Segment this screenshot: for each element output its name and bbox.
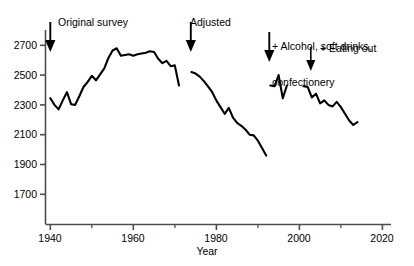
x-tick-marks (50, 225, 382, 231)
y-tick-label-2100: 2100 (5, 128, 37, 140)
x-tick-label-2020: 2020 (362, 232, 402, 244)
y-tick-label-1700: 1700 (5, 188, 37, 200)
x-tick-label-1960: 1960 (113, 232, 153, 244)
x-axis-title: Year (0, 245, 414, 257)
y-tick-marks (40, 45, 46, 194)
chart-container: 2700 2500 2300 2100 1900 1700 1940 1960 … (0, 0, 414, 266)
x-tick-label-1980: 1980 (196, 232, 236, 244)
annotation-original-survey: Original survey (58, 16, 128, 28)
arrow-original-survey (45, 22, 55, 52)
x-tick-label-2000: 2000 (279, 232, 319, 244)
annotation-alcohol-line2: confectionery (272, 76, 372, 88)
y-tick-label-1900: 1900 (5, 158, 37, 170)
annotation-alcohol: + Alcohol, soft drinks, confectionery (272, 16, 372, 112)
y-tick-label-2700: 2700 (5, 39, 37, 51)
annotation-adjusted: Adjusted (190, 16, 231, 28)
y-tick-label-2500: 2500 (5, 69, 37, 81)
series-adjusted (191, 72, 266, 156)
annotation-eating-out: + Eating out (320, 42, 376, 54)
x-tick-label-1940: 1940 (30, 232, 70, 244)
series-original-survey (50, 48, 179, 109)
y-tick-label-2300: 2300 (5, 99, 37, 111)
